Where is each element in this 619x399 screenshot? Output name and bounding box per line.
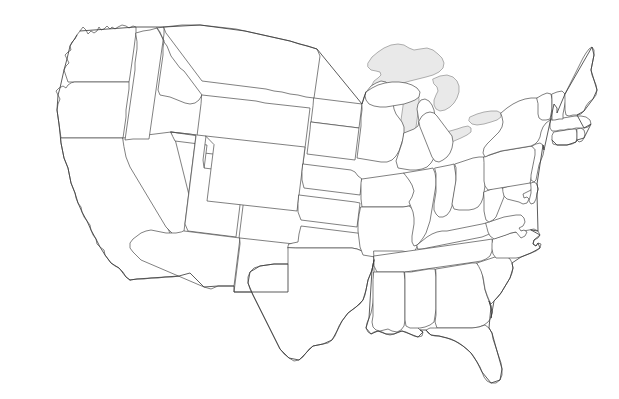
state-ohio <box>452 157 487 210</box>
state-colorado <box>206 136 305 211</box>
state-mississippi <box>372 272 405 332</box>
usa-map-canvas <box>0 0 619 399</box>
us-outline-map <box>0 0 619 399</box>
state-vermont <box>537 93 552 120</box>
state-south-dakota <box>307 122 359 160</box>
state-alabama <box>405 269 436 328</box>
state-oregon <box>56 82 129 138</box>
